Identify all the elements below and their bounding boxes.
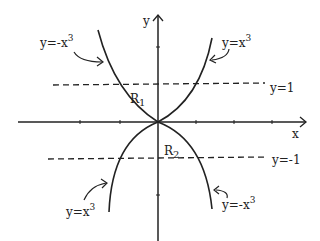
y-axis-label: y: [143, 15, 150, 27]
arrow-upper-left: [74, 52, 103, 66]
region-r1-label: R1: [130, 93, 145, 108]
curve-lower-left: [109, 122, 158, 212]
label-y-equals-minus-1: y=-1: [272, 154, 301, 166]
arrow-lower-left: [84, 179, 107, 200]
arrow-lower-right: [214, 186, 227, 198]
x-axis-label: x: [292, 128, 299, 140]
label-curve-lower-left: y=x3: [66, 206, 95, 218]
curve-upper-right: [158, 38, 212, 122]
region-r2-label: R2: [164, 145, 179, 160]
label-curve-lower-right: y=-x3: [222, 199, 255, 211]
arrow-upper-right: [210, 49, 229, 63]
line-y-equals-1: [53, 83, 265, 85]
diagram-canvas: y x y=1 y=-1 y=-x3 y=x3 y=x3 y=-x3 R1 R2: [0, 0, 320, 241]
y-axis: [153, 15, 163, 241]
curve-upper-left: [98, 30, 158, 122]
curve-lower-right: [158, 122, 212, 209]
x-axis: [18, 117, 306, 127]
label-curve-upper-left: y=-x3: [40, 37, 73, 49]
label-curve-upper-right: y=x3: [222, 37, 251, 49]
label-y-equals-1: y=1: [270, 82, 294, 94]
